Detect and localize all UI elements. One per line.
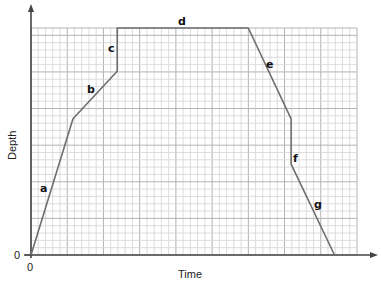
segment-label-d: d <box>178 15 186 28</box>
grid <box>31 28 357 255</box>
segment-label-g: g <box>314 198 322 211</box>
segment-label-e: e <box>266 58 273 71</box>
segment-label-f: f <box>293 152 298 165</box>
y-axis-label: Depth <box>6 131 18 160</box>
x-origin-label: 0 <box>27 261 33 273</box>
y-axis-arrow-icon <box>28 4 34 12</box>
segment-label-c: c <box>108 42 115 55</box>
y-origin-label: 0 <box>14 249 20 261</box>
x-axis-arrow-icon <box>370 252 378 258</box>
x-axis-label: Time <box>178 268 202 280</box>
segment-label-b: b <box>87 83 95 96</box>
depth-time-chart: a b c d e f g 0 0 Time Depth <box>0 0 381 281</box>
segment-label-a: a <box>40 182 47 195</box>
